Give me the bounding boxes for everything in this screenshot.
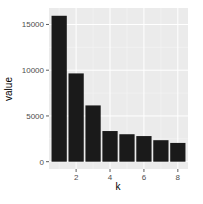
bar-k-8: [170, 143, 185, 162]
x-axis: 2468: [74, 169, 181, 182]
bar-k-4: [102, 131, 117, 162]
bar-chart: 050001000015000 2468 k value: [0, 0, 203, 204]
y-axis-title: value: [3, 77, 14, 101]
y-axis: 050001000015000: [22, 20, 49, 166]
y-tick-label: 0: [40, 158, 45, 167]
y-tick-label: 10000: [22, 66, 45, 75]
x-axis-title: k: [116, 181, 122, 192]
y-tick-label: 5000: [26, 112, 44, 121]
bar-k-5: [119, 134, 134, 161]
x-tick-label: 4: [108, 173, 113, 182]
bar-k-2: [68, 73, 83, 161]
bar-k-1: [52, 16, 67, 162]
bar-k-6: [136, 136, 151, 162]
x-tick-label: 8: [176, 173, 181, 182]
x-tick-label: 2: [74, 173, 79, 182]
bar-k-3: [85, 105, 100, 161]
y-tick-label: 15000: [22, 20, 45, 29]
bar-k-7: [153, 140, 168, 161]
x-tick-label: 6: [142, 173, 147, 182]
